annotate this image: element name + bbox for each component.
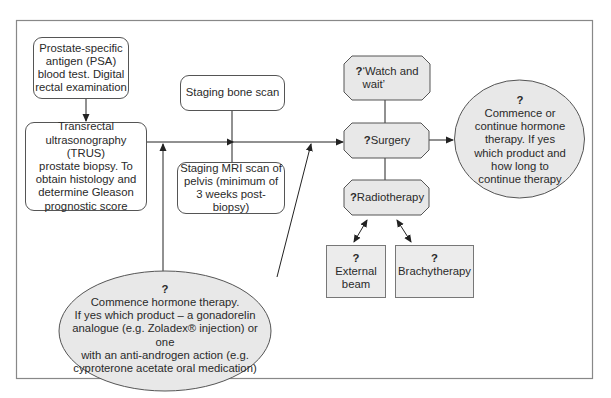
- trus-line-1: Transrectal: [58, 120, 114, 133]
- continue-hormone-line-6: continue therapy: [478, 173, 562, 186]
- brachytherapy-text: Brachytherapy: [398, 265, 471, 278]
- external-beam-question: ?: [353, 252, 360, 265]
- commence-hormone-line-5: cyproterone acetate oral medication): [73, 362, 256, 375]
- arrowhead-staging: [227, 139, 234, 146]
- psa-line-4: rectal examination: [35, 81, 127, 94]
- brachytherapy-box: ? Brachytherapy: [395, 245, 474, 298]
- psa-line-2: antigen (PSA): [46, 55, 116, 68]
- surgery-label: ?Surgery: [344, 123, 430, 158]
- mri-line-2: pelvis (minimum of: [184, 175, 278, 188]
- bone-scan-label: Staging bone scan: [186, 86, 280, 99]
- psa-line-1: Prostate-specific: [39, 42, 123, 55]
- continue-hormone-line-2: continue hormone: [475, 120, 565, 133]
- external-beam-line-2: beam: [342, 278, 370, 291]
- trus-line-4: obtain histology and: [36, 173, 137, 186]
- psa-line-3: blood test. Digital: [38, 68, 125, 81]
- commence-hormone-line-4: with an anti-androgen action (e.g.: [81, 349, 249, 362]
- continue-hormone-line-3: therapy. If yes: [485, 133, 555, 146]
- trus-line-2: ultrasonography (TRUS): [26, 134, 146, 160]
- surgery-question: ?: [364, 134, 371, 146]
- trus-biopsy-box: Transrectal ultrasonography (TRUS) prost…: [25, 122, 147, 211]
- mri-line-1: Staging MRI scan of: [180, 162, 282, 175]
- surgery-text: Surgery: [371, 134, 411, 146]
- mri-scan-box: Staging MRI scan of pelvis (minimum of 3…: [177, 162, 285, 214]
- external-beam-box: ? External beam: [326, 245, 386, 298]
- watch-wait-label: ?‘Watch and wait’: [344, 56, 430, 100]
- arrow-radio-brachy: [397, 220, 411, 242]
- continue-hormone-line-1: Commence or: [485, 107, 556, 120]
- commence-hormone-line-3: analogue (e.g. Zoladex® injection) or on…: [62, 322, 268, 348]
- radiotherapy-text: Radiotherapy: [357, 191, 424, 203]
- radiotherapy-question: ?: [350, 191, 357, 203]
- continue-hormone-line-5: how long to: [491, 160, 549, 173]
- arrow-radio-external: [354, 220, 367, 242]
- trus-line-3: prostate biopsy. To: [39, 160, 133, 173]
- commence-hormone-text: ? Commence hormone therapy. If yes which…: [62, 288, 268, 370]
- commence-hormone-line-2: If yes which product – a gonadorelin: [75, 309, 256, 322]
- continue-hormone-line-4: which product and: [474, 147, 566, 160]
- bone-scan-box: Staging bone scan: [180, 75, 285, 111]
- psa-test-box: Prostate-specific antigen (PSA) blood te…: [33, 37, 129, 99]
- external-beam-line-1: External: [335, 265, 376, 278]
- commence-hormone-line-1: Commence hormone therapy.: [91, 296, 240, 309]
- commence-hormone-question: ?: [162, 283, 169, 296]
- radiotherapy-label: ?Radiotherapy: [344, 180, 430, 215]
- trus-line-5: determine Gleason: [38, 186, 133, 199]
- continue-hormone-question: ?: [517, 94, 524, 107]
- watch-wait-line-1: ‘Watch and: [362, 65, 418, 77]
- continue-hormone-text: ? Commence or continue hormone therapy. …: [460, 88, 580, 192]
- mri-line-3: 3 weeks post-biopsy): [178, 188, 284, 214]
- brachytherapy-question: ?: [431, 252, 438, 265]
- trus-line-6: prognostic score: [45, 200, 128, 213]
- watch-wait-line-2: wait’: [363, 78, 386, 90]
